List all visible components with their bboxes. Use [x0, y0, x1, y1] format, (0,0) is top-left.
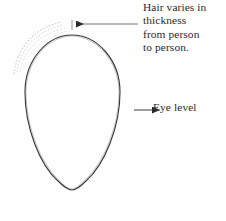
eye-level-label: Eye level — [153, 101, 197, 113]
hair-note-line-4: to person. — [143, 41, 226, 54]
head-egg-outline — [25, 35, 120, 190]
hair-note-line-2: thickness — [143, 14, 226, 27]
hair-note-line-1: Hair varies in — [143, 1, 226, 14]
hair-varies-note: Hair varies in thickness from person to … — [143, 1, 226, 55]
head-proportion-figure: Hair varies in thickness from person to … — [0, 0, 226, 221]
hair-note-line-3: from person — [143, 28, 226, 41]
